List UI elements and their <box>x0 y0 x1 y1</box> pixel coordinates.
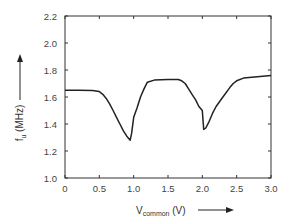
y-axis-title: fu (MHz) <box>14 105 27 142</box>
x-tick-label: 2.5 <box>230 183 243 194</box>
y-tick-label: 2.2 <box>44 11 57 22</box>
chart: 00.51.01.52.02.53.0 1.01.21.41.61.82.02.… <box>0 0 290 224</box>
svg-text:fu (MHz): fu (MHz) <box>14 105 27 142</box>
x-tick-label: 3.0 <box>264 183 277 194</box>
y-tick-label: 1.0 <box>44 173 57 184</box>
right-arrow-icon <box>198 207 234 213</box>
y-tick-label: 2.0 <box>44 38 57 49</box>
x-tick-label: 1.5 <box>161 183 174 194</box>
x-tick-labels: 00.51.01.52.02.53.0 <box>62 183 277 194</box>
x-tick-label: 1.0 <box>127 183 140 194</box>
y-tick-label: 1.8 <box>44 65 57 76</box>
y-tick-label: 1.4 <box>44 119 57 130</box>
y-tick-labels: 1.01.21.41.61.82.02.2 <box>44 11 57 184</box>
x-tick-label: 2.0 <box>196 183 209 194</box>
plot-frame <box>65 16 271 178</box>
data-line <box>65 75 271 140</box>
x-label-sub: common <box>143 210 170 217</box>
x-tick-label: 0 <box>62 183 67 194</box>
axis-ticks <box>65 16 271 178</box>
x-tick-label: 0.5 <box>93 183 106 194</box>
y-tick-label: 1.6 <box>44 92 57 103</box>
y-label-unit: (MHz) <box>14 105 25 135</box>
x-label-unit: (V) <box>170 205 186 216</box>
y-tick-label: 1.2 <box>44 146 57 157</box>
up-arrow-icon <box>17 54 23 100</box>
x-axis-title: Vcommon (V) <box>136 205 186 217</box>
